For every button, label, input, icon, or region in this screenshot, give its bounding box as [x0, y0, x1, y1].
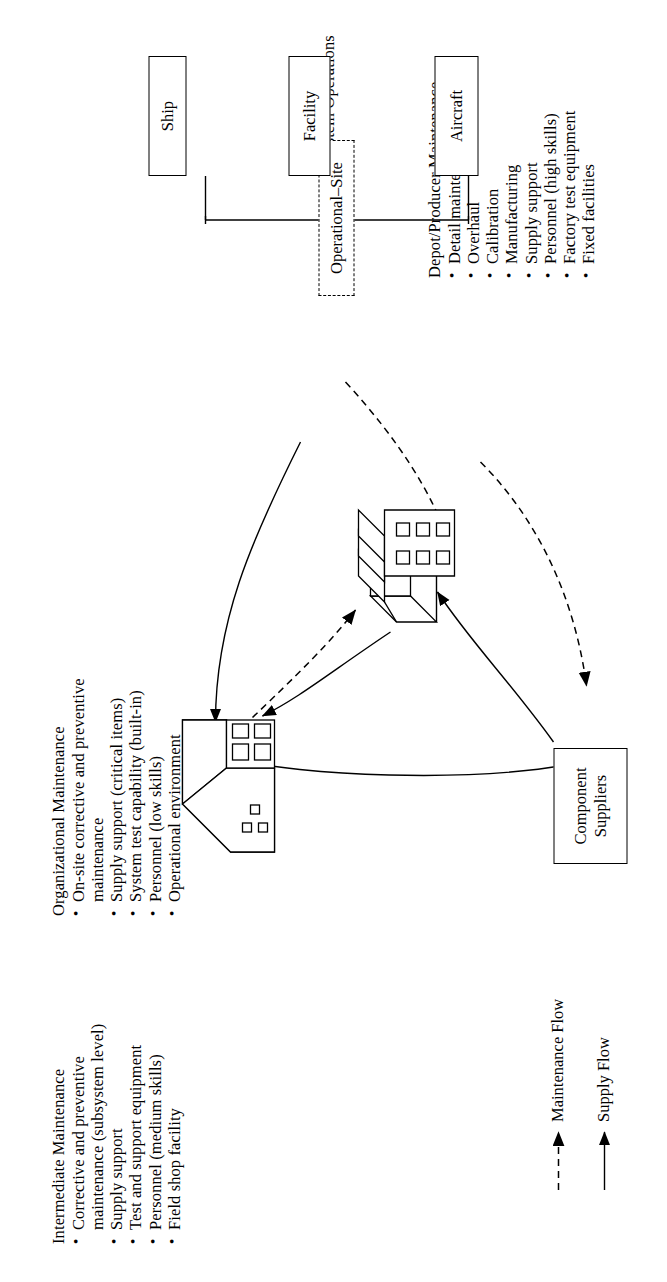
legend-maintenance-flow-label: Maintenance Flow	[547, 999, 567, 1122]
legend-supply-flow-label: Supply Flow	[593, 1037, 613, 1122]
maintenance-levels-diagram: Organizational Maintenance On-site corre…	[0, 0, 667, 1282]
